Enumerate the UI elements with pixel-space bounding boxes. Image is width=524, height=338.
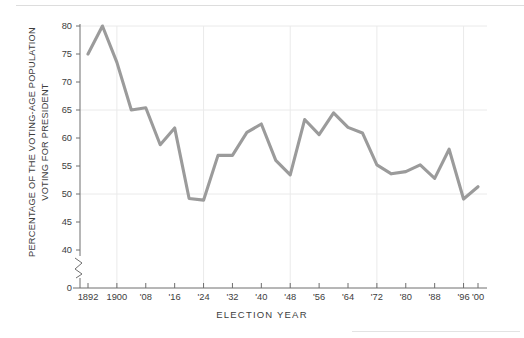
data-series-group <box>88 26 478 200</box>
x-tick-label: '32 <box>226 292 238 302</box>
x-tick-label: '80 <box>400 292 412 302</box>
x-tick-label: '48 <box>284 292 296 302</box>
x-tick-label: '96 <box>457 292 469 302</box>
x-tick-label: 1900 <box>107 292 128 302</box>
y-tick-labels-group: 8075706560555045400 <box>62 21 72 293</box>
x-axis-title: ELECTION YEAR <box>0 309 524 320</box>
y-tick-label: 55 <box>62 161 72 171</box>
y-tick-label: 0 <box>67 283 72 293</box>
x-tick-label: '08 <box>140 292 152 302</box>
x-tick-label: '00 <box>472 292 484 302</box>
turnout-line-series <box>88 26 478 200</box>
line-chart-plot: 8075706560555045400 18921900'08'16'24'32… <box>0 0 524 338</box>
y-tick-label: 65 <box>62 105 72 115</box>
y-tick-label: 75 <box>62 49 72 59</box>
gridlines-group <box>80 26 487 288</box>
x-tick-label: '40 <box>255 292 267 302</box>
x-tick-label: '56 <box>313 292 325 302</box>
x-tick-label: '64 <box>342 292 354 302</box>
x-tick-label: '88 <box>429 292 441 302</box>
x-tick-label: '72 <box>371 292 383 302</box>
y-tick-label: 45 <box>62 217 72 227</box>
x-tick-labels-group: 18921900'08'16'24'32'40'48'56'64'72'80'8… <box>78 292 484 302</box>
y-tick-label: 80 <box>62 21 72 31</box>
y-tick-label: 50 <box>62 189 72 199</box>
y-axis-break-symbol <box>75 258 82 278</box>
y-tick-label: 40 <box>62 245 72 255</box>
bottom-divider-rule <box>352 331 520 332</box>
x-tick-label: 1892 <box>78 292 99 302</box>
top-divider-rule <box>16 5 524 6</box>
y-tick-label: 70 <box>62 77 72 87</box>
y-axis-title: PERCENTAGE OF THE VOTING-AGE POPULATION … <box>26 0 56 292</box>
chart-figure: PERCENTAGE OF THE VOTING-AGE POPULATION … <box>0 0 524 338</box>
y-tick-label: 60 <box>62 133 72 143</box>
x-tick-label: '24 <box>197 292 209 302</box>
x-tick-label: '16 <box>169 292 181 302</box>
axes-group <box>73 24 487 288</box>
